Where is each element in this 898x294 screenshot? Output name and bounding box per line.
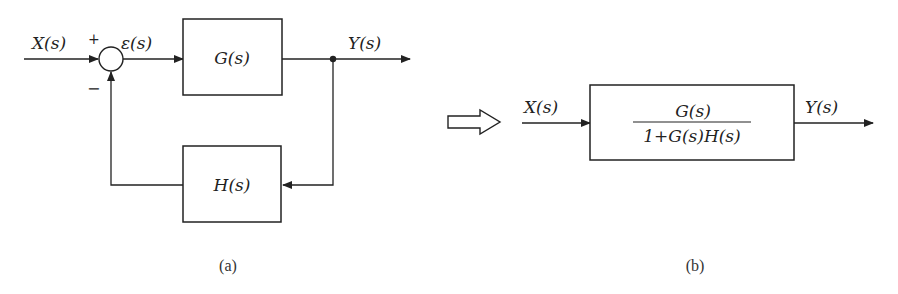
summing-junction xyxy=(99,47,123,71)
feedback-line-right xyxy=(283,59,333,185)
output-label-a: Y(s) xyxy=(348,33,381,53)
block-diagram: X(s) + − ε(s) G(s) Y(s) H(s) (a) X(s) G(… xyxy=(0,0,898,294)
minus-sign: − xyxy=(87,79,100,98)
input-label-a: X(s) xyxy=(30,33,66,53)
transfer-denominator: 1+G(s)H(s) xyxy=(643,126,740,146)
forward-block-label: G(s) xyxy=(214,48,250,68)
plus-sign: + xyxy=(88,31,100,47)
hollow-right-arrow-icon xyxy=(448,110,500,134)
transfer-numerator: G(s) xyxy=(675,101,711,121)
caption-a: (a) xyxy=(219,257,237,275)
output-label-b: Y(s) xyxy=(805,97,838,117)
caption-b: (b) xyxy=(686,257,705,275)
error-label: ε(s) xyxy=(121,33,152,53)
feedback-line-left xyxy=(111,72,183,185)
panel-a: X(s) + − ε(s) G(s) Y(s) H(s) (a) xyxy=(24,19,410,275)
panel-b: X(s) G(s) 1+G(s)H(s) Y(s) (b) xyxy=(522,85,873,275)
input-label-b: X(s) xyxy=(522,97,558,117)
feedback-block-label: H(s) xyxy=(213,175,251,195)
